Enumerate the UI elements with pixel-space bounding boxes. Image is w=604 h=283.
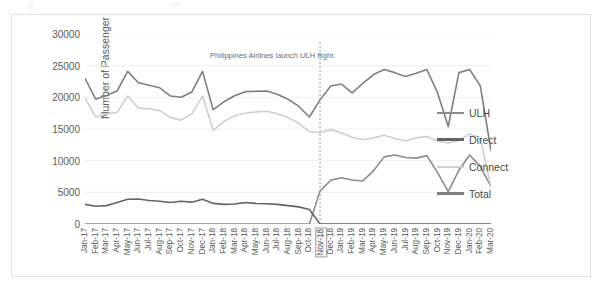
y-axis-tick-label: 15000 — [52, 124, 80, 135]
x-axis-tick-label: Jun-19 — [391, 228, 399, 253]
series-line-connect — [85, 96, 491, 188]
legend-label: Connect — [469, 161, 508, 173]
event-annotation-label: Philippines Airlines launch ULH flight. — [210, 51, 335, 60]
legend-swatch-icon — [437, 138, 464, 141]
x-axis-tick-label: Aug-19 — [412, 228, 420, 254]
x-axis-tick-label: Apr-17 — [113, 228, 121, 253]
x-axis-tick-label: Sep-18 — [295, 228, 303, 254]
x-axis-tick-label: Apr-18 — [241, 228, 249, 253]
legend-item-direct[interactable]: Direct — [437, 126, 547, 153]
x-axis-tick-label: Aug-18 — [284, 228, 292, 254]
x-axis-tick-label: Jul-18 — [273, 228, 281, 250]
legend-item-ulh[interactable]: ULH — [437, 99, 547, 126]
x-axis-tick-label: Jun-18 — [263, 228, 271, 253]
legend-swatch-icon — [437, 166, 464, 168]
x-axis-tick-label: Nov-19 — [444, 228, 452, 254]
y-axis-tick-label: 10000 — [52, 155, 80, 166]
y-axis-tick-label: 20000 — [52, 92, 80, 103]
chart-svg — [85, 34, 491, 224]
x-axis-tick-label: Jan-19 — [337, 228, 345, 253]
x-axis-tick-label: May-17 — [124, 228, 132, 255]
x-axis-tick-label: Feb-19 — [348, 228, 356, 254]
legend-label: Total — [469, 188, 491, 200]
x-axis-tick-label: Jan-20 — [466, 228, 474, 253]
x-axis-tick-label: Mar-18 — [231, 228, 239, 254]
x-axis-tick-label: Dec-17 — [199, 228, 207, 254]
y-axis-tick-label: 5000 — [58, 187, 80, 198]
legend-label: ULH — [469, 107, 490, 119]
legend-item-total[interactable]: Total — [437, 180, 547, 207]
x-axis-tick-label: Dec-18 — [327, 228, 335, 254]
scan-artifacts — [0, 0, 604, 12]
x-axis-tick-label: Sep-17 — [166, 228, 174, 254]
x-axis-tick-label: Jun-17 — [134, 228, 142, 253]
y-axis-tick-label: 0 — [74, 219, 80, 230]
x-axis-tick-label: Mar-17 — [102, 228, 110, 254]
legend-item-connect[interactable]: Connect — [437, 153, 547, 180]
x-axis-tick-label: Feb-18 — [220, 228, 228, 254]
x-axis-tick-label: May-18 — [252, 228, 260, 255]
series-line-direct — [85, 199, 491, 224]
x-axis-tick-label: Jan-17 — [81, 228, 89, 253]
x-axis-tick-label: Oct-19 — [434, 228, 442, 253]
y-axis-tick-label: 30000 — [52, 29, 80, 40]
legend-label: Direct — [469, 134, 496, 146]
x-axis-tick-label: Feb-20 — [476, 228, 484, 254]
x-axis-tick-label: Sep-19 — [423, 228, 431, 254]
y-axis-tick-label: 25000 — [52, 60, 80, 71]
x-axis-tick-label: Apr-19 — [369, 228, 377, 253]
x-axis-tick-label: Oct-17 — [177, 228, 185, 253]
legend-swatch-icon — [437, 112, 464, 114]
chart-container: Number of Passenger 05000100001500020000… — [11, 14, 591, 277]
x-axis-tick-label: Dec-19 — [455, 228, 463, 254]
x-axis-tick-label: Jul-19 — [402, 228, 410, 250]
x-axis-tick-label: Oct-18 — [305, 228, 313, 253]
x-axis-tick-label: Nov-18 — [316, 228, 326, 256]
x-axis-tick-label: Jan-18 — [209, 228, 217, 253]
x-axis-tick-label: May-19 — [380, 228, 388, 255]
legend-swatch-icon — [437, 192, 464, 195]
x-axis-ticks: Jan-17Feb-17Mar-17Apr-17May-17Jun-17Jul-… — [85, 224, 491, 283]
x-axis-tick-label: Feb-17 — [92, 228, 100, 254]
x-axis-tick-label: Jul-17 — [145, 228, 153, 250]
series-line-ulh — [85, 155, 491, 224]
x-axis-tick-label: Mar-19 — [359, 228, 367, 254]
x-axis-tick-label: Aug-17 — [156, 228, 164, 254]
x-axis-tick-label: Mar-20 — [487, 228, 495, 254]
plot-area: Number of Passenger 05000100001500020000… — [85, 34, 491, 224]
x-axis-tick-label: Nov-17 — [188, 228, 196, 254]
chart-legend: ULHDirectConnectTotal — [437, 99, 547, 207]
